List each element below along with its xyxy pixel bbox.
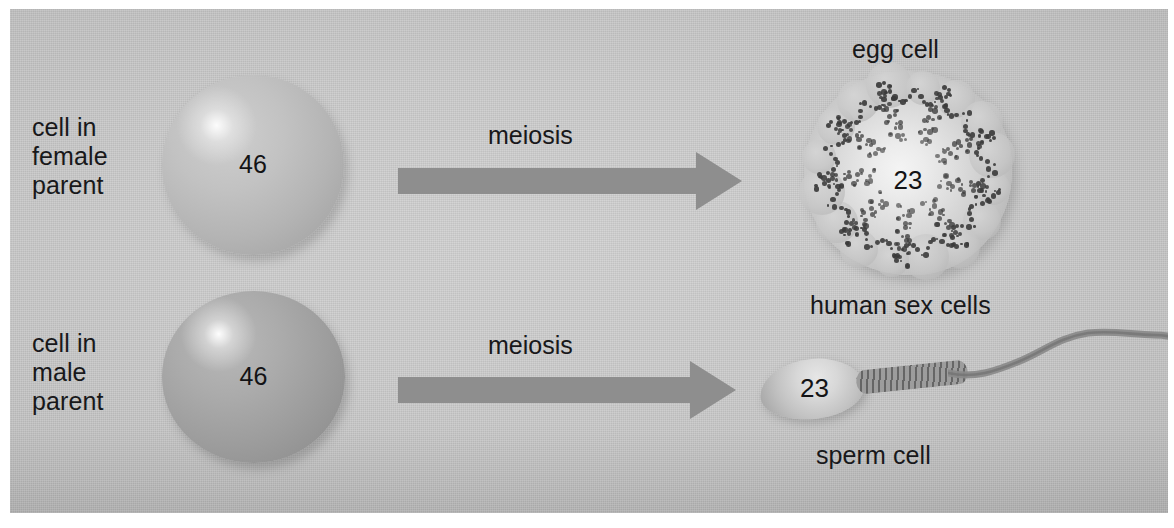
egg-granule	[849, 221, 854, 226]
arrow-head	[696, 152, 742, 210]
egg-granule	[934, 222, 940, 228]
egg-granule	[956, 147, 959, 150]
egg-granule	[847, 215, 850, 218]
egg-granule	[985, 159, 990, 164]
egg-granule	[873, 151, 879, 157]
egg-granule	[845, 241, 849, 245]
meiosis-arrow-female-icon	[398, 152, 742, 210]
egg-granule	[888, 89, 893, 94]
egg-granule	[915, 247, 920, 252]
egg-granule	[906, 264, 910, 268]
egg-granule	[950, 235, 955, 240]
egg-granule	[869, 143, 873, 147]
male-parent-chromosome-count: 46	[162, 362, 345, 391]
egg-granule	[862, 100, 868, 106]
egg-granule	[829, 152, 833, 156]
egg-granule	[954, 155, 959, 160]
label-meiosis-top: meiosis	[488, 121, 573, 150]
egg-granule	[866, 138, 872, 144]
egg-granule	[942, 214, 944, 216]
egg-granule	[987, 199, 992, 204]
egg-granule	[932, 108, 938, 114]
egg-granule	[928, 240, 932, 244]
arrow-shaft	[398, 168, 700, 194]
egg-granule	[946, 147, 950, 151]
egg-cell: 23	[804, 71, 1012, 275]
egg-granule	[827, 204, 829, 206]
egg-granule	[877, 91, 882, 96]
egg-granule	[847, 231, 851, 235]
egg-granule	[978, 134, 981, 137]
egg-granule	[928, 102, 933, 107]
egg-granule	[901, 248, 904, 251]
egg-granule	[876, 82, 882, 88]
egg-granule	[978, 128, 983, 133]
egg-granule	[973, 225, 975, 227]
label-female-parent: cell in female parent	[32, 113, 108, 200]
egg-granule	[908, 94, 912, 98]
egg-granule	[989, 139, 992, 142]
egg-granule	[865, 143, 868, 146]
egg-granule	[911, 88, 916, 93]
egg-granule	[932, 199, 936, 203]
label-male-parent: cell in male parent	[32, 329, 104, 416]
egg-granule	[896, 109, 899, 112]
egg-granule	[854, 221, 858, 225]
sperm-tail-flagellum	[948, 321, 1168, 401]
egg-granule	[888, 132, 893, 137]
egg-granule	[843, 138, 847, 142]
egg-granule	[843, 234, 845, 236]
egg-granule	[880, 148, 885, 153]
egg-granule	[992, 136, 996, 140]
egg-granule	[902, 214, 905, 217]
egg-granule	[894, 126, 898, 130]
egg-granule	[960, 243, 962, 245]
egg-granule	[870, 200, 873, 203]
egg-granule	[966, 242, 969, 245]
egg-granule	[932, 203, 937, 208]
egg-granule	[967, 142, 973, 148]
female-parent-cell: 46	[162, 75, 344, 255]
egg-granule	[909, 227, 911, 229]
egg-chromosome-count: 23	[804, 165, 1012, 196]
egg-granule	[959, 144, 963, 148]
label-human-sex-cells: human sex cells	[810, 291, 991, 320]
egg-granule	[901, 235, 904, 238]
egg-granule	[887, 102, 891, 106]
egg-granule	[967, 211, 972, 216]
egg-granule	[932, 127, 937, 132]
egg-granule	[829, 120, 833, 124]
egg-granule	[858, 146, 861, 149]
egg-granule	[874, 216, 876, 218]
meiosis-diagram: cell in female parent cell in male paren…	[0, 0, 1174, 528]
egg-granule	[960, 224, 964, 228]
egg-granule	[864, 244, 870, 250]
egg-granule	[847, 136, 853, 142]
egg-granule	[895, 133, 901, 139]
egg-granule	[935, 154, 939, 158]
egg-granule	[880, 238, 885, 243]
egg-granule	[939, 239, 945, 245]
egg-granule	[885, 239, 888, 242]
egg-granule	[887, 84, 892, 89]
egg-granule	[984, 134, 989, 139]
egg-granule	[833, 157, 837, 161]
sperm-cell: 23	[752, 321, 1168, 431]
egg-granule	[911, 243, 916, 248]
egg-granule	[830, 197, 836, 203]
female-parent-chromosome-count: 46	[162, 150, 344, 179]
egg-granule	[848, 228, 852, 232]
egg-granule	[934, 101, 936, 103]
photo-plate: cell in female parent cell in male paren…	[10, 9, 1168, 513]
egg-granule	[867, 153, 872, 158]
egg-granule	[904, 138, 907, 141]
egg-granule	[881, 97, 887, 103]
label-egg-cell: egg cell	[852, 35, 939, 64]
egg-granule	[844, 220, 849, 225]
egg-granule	[887, 120, 890, 123]
egg-granule	[855, 133, 860, 138]
egg-granule	[926, 246, 930, 250]
egg-granule	[944, 103, 948, 107]
egg-granule	[923, 252, 929, 258]
egg-granule	[918, 94, 924, 100]
